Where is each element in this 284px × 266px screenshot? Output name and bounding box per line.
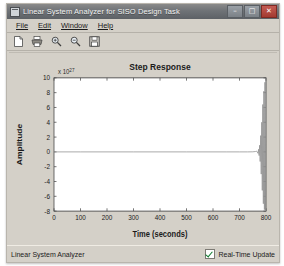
- realtime-update-checkbox[interactable]: [205, 249, 215, 259]
- close-button[interactable]: ✕: [261, 5, 277, 18]
- window-title: Linear System Analyzer for SISO Design T…: [23, 7, 227, 16]
- x-tick-label: 700: [234, 214, 245, 221]
- y-tick-label: -2: [44, 163, 50, 170]
- y-axis-label: Amplitude: [15, 123, 23, 165]
- title-bar[interactable]: Linear System Analyzer for SISO Design T…: [7, 4, 279, 19]
- menu-item-window[interactable]: Window: [56, 19, 93, 32]
- menu-window-label: Window: [61, 21, 88, 30]
- print-button[interactable]: [29, 34, 45, 50]
- minimize-icon: –: [228, 6, 242, 17]
- y-tick-label: -8: [44, 207, 50, 214]
- x-tick-label: 600: [208, 214, 219, 221]
- step-response-plot[interactable]: Step Response x 1027 Amplitude Time (sec…: [9, 53, 277, 245]
- menu-edit-label: Edit: [38, 21, 51, 30]
- x-tick-label: 500: [181, 214, 192, 221]
- maximize-button[interactable]: □: [244, 5, 260, 18]
- menu-bar: File Edit Window Help: [7, 19, 279, 33]
- close-icon: ✕: [262, 6, 276, 17]
- figure-panel[interactable]: Step Response x 1027 Amplitude Time (sec…: [9, 52, 277, 245]
- new-figure-icon: [13, 36, 24, 47]
- y-tick-label: 2: [46, 133, 50, 140]
- maximize-icon: □: [245, 6, 259, 17]
- zoom-in-icon: [51, 36, 62, 47]
- x-tick-label: 800: [261, 214, 272, 221]
- save-button[interactable]: [86, 34, 102, 50]
- menu-item-help[interactable]: Help: [93, 19, 118, 32]
- window-controls: – □ ✕: [227, 5, 277, 18]
- menu-item-edit[interactable]: Edit: [33, 19, 56, 32]
- window-icon: [10, 7, 20, 17]
- y-tick-label: 10: [43, 74, 50, 81]
- application-window: Linear System Analyzer for SISO Design T…: [6, 3, 280, 263]
- y-tick-label: 6: [46, 104, 50, 111]
- toolbar: [7, 33, 279, 51]
- y-tick-label: 4: [46, 119, 50, 126]
- realtime-update-label: Real-Time Update: [218, 251, 275, 258]
- desktop-background: Linear System Analyzer for SISO Design T…: [0, 0, 284, 266]
- chart-title: Step Response: [129, 61, 190, 72]
- save-icon: [89, 36, 100, 47]
- x-axis-label: Time (seconds): [133, 230, 188, 240]
- zoom-out-icon: [70, 36, 81, 47]
- y-tick-label: 8: [46, 89, 50, 96]
- y-tick-label: 0: [46, 148, 50, 155]
- x-tick-label: 300: [128, 214, 139, 221]
- y-tick-label: -6: [44, 193, 50, 200]
- realtime-update-toggle[interactable]: Real-Time Update: [205, 249, 275, 259]
- menu-file-label: File: [16, 21, 28, 30]
- plot-axes-frame: [54, 78, 266, 211]
- x-tick-label: 400: [155, 214, 166, 221]
- menu-item-file[interactable]: File: [11, 19, 33, 32]
- menu-help-label: Help: [98, 21, 113, 30]
- minimize-button[interactable]: –: [227, 5, 243, 18]
- zoom-in-button[interactable]: [48, 34, 64, 50]
- status-text: Linear System Analyzer: [11, 251, 85, 258]
- x-tick-label: 200: [102, 214, 113, 221]
- new-figure-button[interactable]: [10, 34, 26, 50]
- y-tick-label: -4: [44, 178, 50, 185]
- x-tick-label: 100: [75, 214, 86, 221]
- status-bar: Linear System Analyzer Real-Time Update: [7, 245, 279, 262]
- print-icon: [31, 36, 43, 47]
- x-tick-label: 0: [52, 214, 56, 221]
- zoom-out-button[interactable]: [67, 34, 83, 50]
